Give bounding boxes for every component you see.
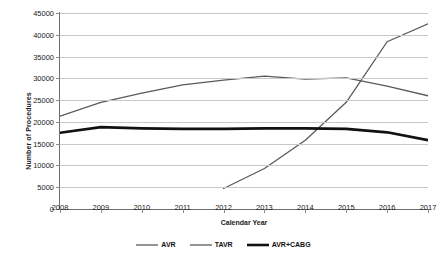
plot-area bbox=[60, 13, 428, 209]
x-tick-label: 2017 bbox=[408, 203, 447, 212]
y-tickmark bbox=[56, 144, 60, 145]
legend-swatch-icon bbox=[190, 242, 212, 248]
gridline bbox=[60, 78, 428, 79]
x-tick-label: 2012 bbox=[204, 203, 244, 212]
series-line-avr bbox=[60, 76, 428, 116]
y-tickmark bbox=[56, 57, 60, 58]
y-tickmark bbox=[56, 122, 60, 123]
y-tickmark bbox=[56, 165, 60, 166]
legend-item-avr[interactable]: AVR bbox=[136, 241, 175, 248]
gridline bbox=[60, 35, 428, 36]
chart-legend: AVRTAVRAVR+CABG bbox=[0, 241, 447, 248]
y-tick-label: 25000 bbox=[10, 96, 54, 105]
y-tick-label: 45000 bbox=[10, 9, 54, 18]
legend-swatch-icon bbox=[247, 242, 269, 248]
x-tick-label: 2013 bbox=[244, 203, 284, 212]
x-tick-label: 2015 bbox=[326, 203, 366, 212]
series-line-tavr bbox=[224, 24, 428, 189]
y-axis-tick-labels: 0500010000150002000025000300003500040000… bbox=[8, 0, 54, 262]
x-tick-label: 2011 bbox=[163, 203, 203, 212]
y-tick-label: 40000 bbox=[10, 30, 54, 39]
x-tick-label: 2010 bbox=[122, 203, 162, 212]
line-chart: Number of Procedures 0500010000150002000… bbox=[0, 0, 447, 262]
y-tickmark bbox=[56, 187, 60, 188]
y-tick-label: 35000 bbox=[10, 52, 54, 61]
gridline bbox=[60, 122, 428, 123]
legend-swatch-icon bbox=[136, 242, 158, 248]
y-tick-label: 20000 bbox=[10, 117, 54, 126]
legend-label: AVR+CABG bbox=[272, 241, 311, 248]
x-tick-label: 2016 bbox=[367, 203, 407, 212]
x-tick-label: 2009 bbox=[81, 203, 121, 212]
y-tickmark bbox=[56, 35, 60, 36]
x-tick-label: 2014 bbox=[285, 203, 325, 212]
x-axis-title: Calendar Year bbox=[60, 219, 428, 226]
legend-item-avr-plus-cabg[interactable]: AVR+CABG bbox=[247, 241, 311, 248]
y-tickmark bbox=[56, 100, 60, 101]
gridline bbox=[60, 187, 428, 188]
gridline bbox=[60, 100, 428, 101]
y-tickmark bbox=[56, 13, 60, 14]
gridline bbox=[60, 13, 428, 14]
legend-item-tavr[interactable]: TAVR bbox=[190, 241, 233, 248]
y-tick-label: 15000 bbox=[10, 139, 54, 148]
y-tick-label: 30000 bbox=[10, 74, 54, 83]
y-tick-label: 10000 bbox=[10, 161, 54, 170]
y-tickmark bbox=[56, 78, 60, 79]
gridline bbox=[60, 165, 428, 166]
x-tick-label: 2008 bbox=[40, 203, 80, 212]
y-axis-line bbox=[59, 12, 60, 210]
legend-label: AVR bbox=[161, 241, 175, 248]
series-line-avr-plus-cabg bbox=[60, 127, 428, 140]
legend-label: TAVR bbox=[215, 241, 233, 248]
gridline bbox=[60, 144, 428, 145]
gridline bbox=[60, 57, 428, 58]
series-lines bbox=[60, 13, 428, 209]
y-tick-label: 5000 bbox=[10, 183, 54, 192]
